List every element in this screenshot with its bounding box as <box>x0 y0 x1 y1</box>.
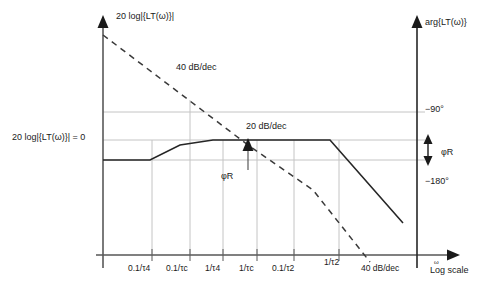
x-tick-label-3: 1/τc <box>239 264 254 273</box>
bode-plot-figure: 20 log|{LT(ω)}| arg{LT(ω)} 20 log|{LT(ω)… <box>0 0 483 300</box>
bode-plot-canvas <box>0 0 483 300</box>
x-tick-label-1: 0.1/τc <box>166 264 188 273</box>
left-axis-label: 20 log|{LT(ω)}| <box>116 12 174 21</box>
phase-margin-label-axis: φR <box>441 148 453 157</box>
x-axis-label: Log scale <box>430 266 469 275</box>
phase-curve <box>103 140 403 223</box>
right-phase-axis <box>412 15 423 268</box>
slope-label-40db-upper: 40 dB/dec <box>176 63 217 72</box>
phase-tick-minus-90: −90° <box>425 105 444 114</box>
x-tick-label-2: 1/τ4 <box>205 264 220 273</box>
grid-lines <box>103 112 425 160</box>
magnitude-curve <box>103 35 370 262</box>
phase-margin-label-plot: φR <box>221 172 233 181</box>
x-tick-label-4: 0.1/τ2 <box>272 264 294 273</box>
slope-label-40db-lower: 40 dB/dec <box>361 264 399 273</box>
x-axis <box>96 249 460 261</box>
x-tick-label-5: 1/τ2 <box>324 258 339 267</box>
phase-margin-double-arrow <box>424 134 433 166</box>
slope-label-20db: 20 dB/dec <box>246 122 287 131</box>
phase-tick-minus-180: −180° <box>425 177 449 186</box>
left-magnitude-axis <box>98 15 109 268</box>
zero-db-label: 20 log|{LT(ω)}| = 0 <box>12 133 85 142</box>
right-axis-label: arg{LT(ω)} <box>425 18 467 27</box>
x-tick-label-0: 0.1/τ4 <box>128 264 150 273</box>
